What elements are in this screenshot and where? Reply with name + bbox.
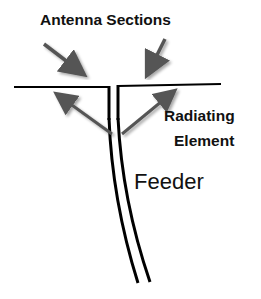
left-antenna-section: [14, 86, 110, 120]
element-label: Element: [174, 132, 234, 150]
arrow-right-section-icon: [148, 39, 165, 73]
antenna-sections-label: Antenna Sections: [40, 11, 171, 29]
radiating-arrows: [58, 92, 173, 134]
section-arrows: [44, 39, 165, 73]
arrow-left-section-icon: [44, 44, 82, 73]
arrow-radiating-left-icon: [58, 95, 112, 134]
feeder-label: Feeder: [134, 169, 204, 195]
radiating-label: Radiating: [164, 107, 235, 125]
feeder-line: [109, 118, 150, 283]
